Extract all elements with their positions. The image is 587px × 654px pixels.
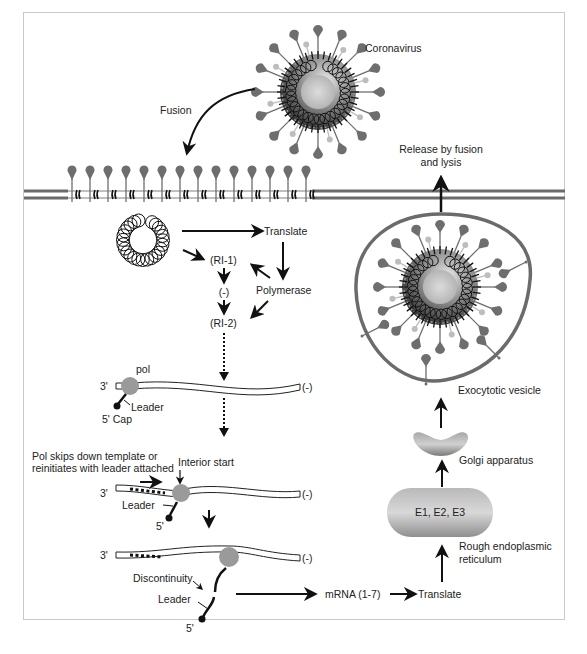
he-spike-head [340, 47, 346, 53]
leader-pointer-3 [198, 602, 208, 609]
three-prime-label-1: 3' [100, 380, 108, 392]
he-spike-head [462, 242, 468, 248]
discontinuity-label: Discontinuity [133, 572, 193, 584]
he-spike-head [412, 326, 418, 332]
template-strand-2 [116, 485, 300, 498]
vesicle-spike-anchor [498, 357, 501, 360]
ri1-label: (RI-1) [210, 254, 237, 266]
golgi-shape [413, 432, 468, 456]
spike-stalk [455, 322, 462, 338]
discontinuity-pointer [193, 581, 202, 589]
spike-stalk [389, 302, 405, 309]
minus-label-2: (-) [302, 488, 313, 500]
he-spike-head [290, 131, 296, 137]
spike-stalk [297, 41, 304, 57]
membrane-spike-head [158, 165, 167, 180]
five-prime-label-3: 5' [186, 622, 194, 634]
he-spike-head [389, 296, 395, 302]
he-spike-head [273, 64, 279, 70]
genome-loop [124, 249, 137, 262]
er-proteins-label: E1, E2, E3 [415, 506, 465, 518]
spike-head [456, 335, 470, 351]
arrow-to-ri1 [183, 250, 203, 259]
release-label-line2: and lysis [421, 156, 462, 168]
he-spike-head [357, 114, 363, 120]
spike-head [456, 223, 470, 239]
spike-head [334, 28, 348, 44]
rough-er-label-line2: reticulum [459, 553, 502, 565]
spike-head [288, 140, 302, 156]
nascent-strand [215, 568, 226, 592]
leader-label-1: Leader [131, 401, 164, 413]
cap-dot-1 [114, 403, 121, 410]
virus-core [423, 270, 457, 304]
spike-stalk [475, 302, 491, 309]
spike-head [254, 62, 270, 76]
minus-label-3: (-) [302, 552, 313, 564]
spike-head [435, 341, 445, 354]
spike-stalk [455, 236, 462, 252]
he-spike-head [449, 332, 455, 338]
fusion-arrow [187, 89, 255, 153]
genome-loop [145, 252, 158, 265]
five-prime-dot-3 [199, 616, 206, 623]
minus-strand-label: (-) [219, 286, 230, 298]
minus-label-1: (-) [302, 381, 313, 393]
spike-stalk [419, 236, 426, 252]
polymerase-blob-3 [219, 547, 239, 567]
fusion-label: Fusion [160, 104, 192, 116]
polymerase-label: Polymerase [256, 284, 312, 296]
arrow-polymerase-to-ri2 [252, 301, 268, 317]
leader-label-2: Leader [122, 499, 155, 511]
five-prime-cap-label: 5' Cap [102, 413, 132, 425]
membrane-spike-head [86, 165, 95, 180]
spike-head [488, 257, 504, 271]
polymerase-blob-1 [121, 377, 139, 395]
spike-head [410, 335, 424, 351]
he-spike-head [395, 259, 401, 265]
vesicle-spike-anchor [425, 383, 428, 386]
leader-label-3: Leader [158, 593, 191, 605]
spike-head [373, 282, 386, 292]
skip-note-line1: Pol skips down template or [32, 450, 158, 462]
spike-head [313, 25, 323, 38]
membrane-spike-head [176, 165, 185, 180]
five-prime-label-2: 5' [156, 520, 164, 532]
spike-stalk [267, 107, 283, 114]
spike-head [366, 62, 382, 76]
membrane-spike-head [104, 165, 113, 180]
spike-stalk [297, 127, 304, 143]
membrane-spike-head [122, 165, 131, 180]
leader-pointer-1 [124, 400, 130, 405]
translate-bottom-label: Translate [418, 588, 462, 600]
spike-head [372, 87, 385, 97]
spike-head [494, 282, 507, 292]
he-spike-head [303, 41, 309, 47]
genome-loop [149, 218, 162, 231]
spike-stalk [353, 107, 369, 114]
virus-core [301, 75, 335, 109]
spike-stalk [267, 71, 283, 78]
genome-loop [155, 225, 168, 238]
spike-head [376, 257, 392, 271]
template-strand-1 [116, 382, 300, 395]
spike-stalk [353, 71, 369, 78]
spike-stalk [389, 266, 405, 273]
spike-stalk [333, 127, 340, 143]
spike-stalk [475, 266, 491, 273]
spike-stalk [333, 41, 340, 57]
spike-head [435, 220, 445, 233]
he-spike-head [479, 309, 485, 315]
dotted-arrow-2-head [219, 428, 229, 437]
rough-er-label-line1: Rough endoplasmic [459, 540, 552, 552]
skip-note-line2: reinitiates with leader attached [32, 462, 174, 474]
membrane-spike-head [212, 165, 221, 180]
spike-head [376, 303, 392, 317]
translate-top-label: Translate [264, 225, 308, 237]
vesicle-spike-stalk [510, 262, 526, 270]
coronavirus-label: Coronavirus [365, 42, 422, 54]
membrane-spike-head [302, 165, 311, 180]
he-spike-head [425, 236, 431, 242]
spike-stalk [419, 322, 426, 338]
leader-strand-2 [170, 502, 177, 515]
